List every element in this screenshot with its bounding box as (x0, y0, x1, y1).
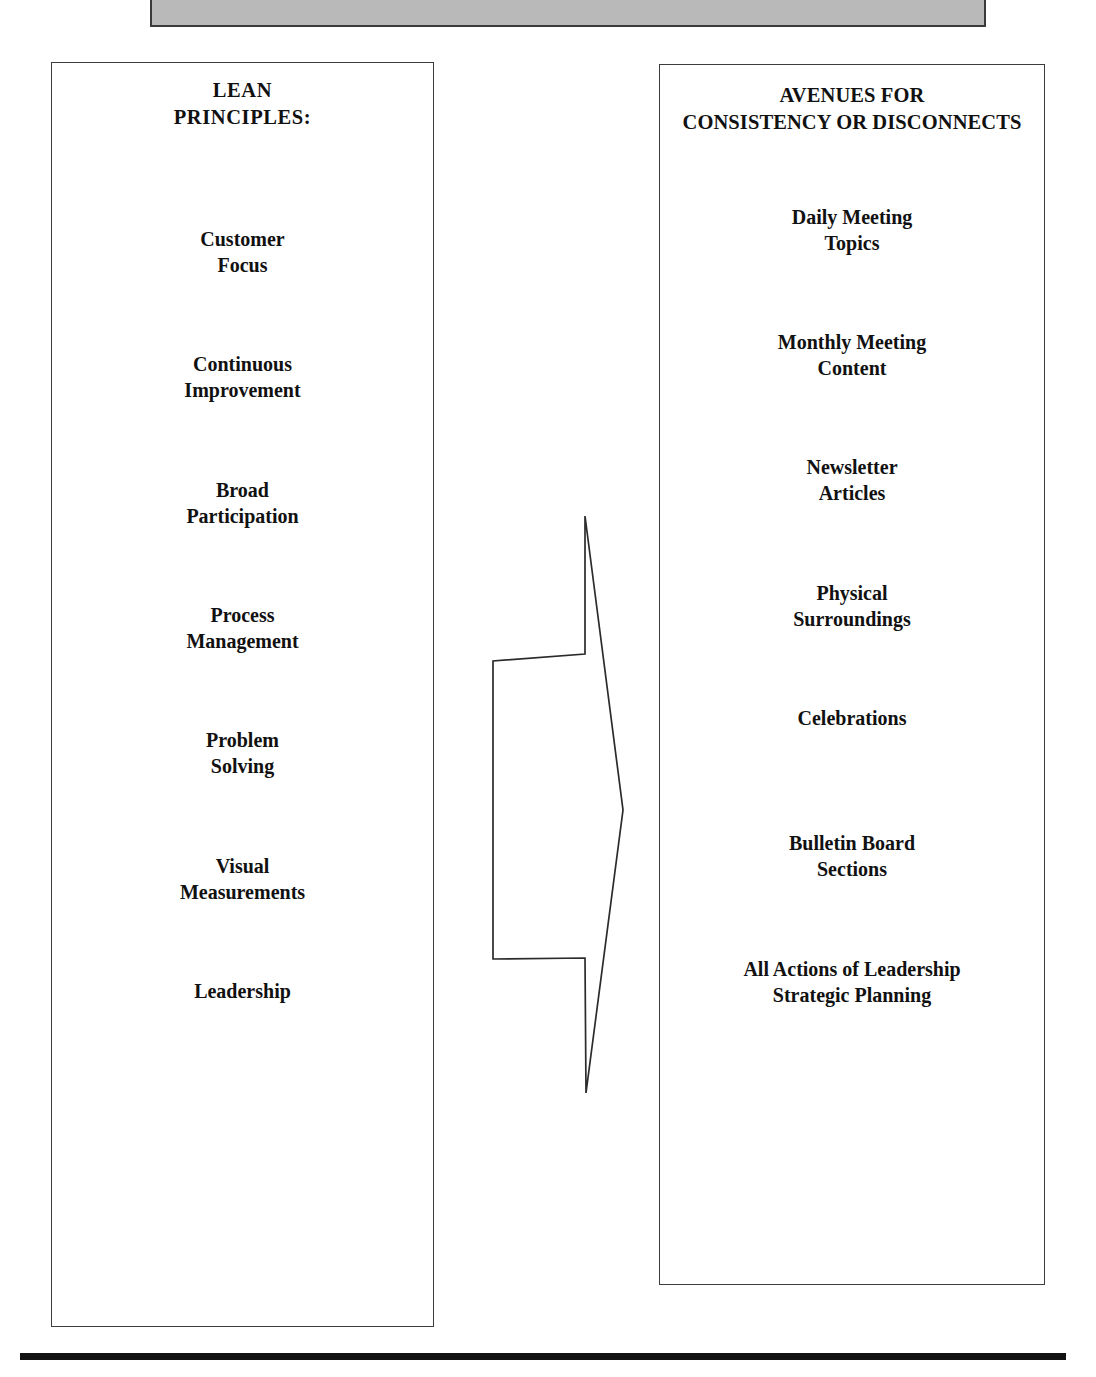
list-item-line: Focus (52, 252, 433, 278)
list-item-line: Broad (52, 477, 433, 503)
list-item-line: Visual (52, 853, 433, 879)
list-item-line: All Actions of Leadership (660, 956, 1044, 982)
list-item-line: Continuous (52, 351, 433, 377)
heading-line: CONSISTENCY OR DISCONNECTS (660, 109, 1044, 136)
list-item: Broad Participation (52, 477, 433, 529)
list-item-line: Strategic Planning (660, 982, 1044, 1008)
list-item-line: Newsletter (660, 454, 1044, 480)
list-item: Daily Meeting Topics (660, 204, 1044, 256)
top-gray-banner (150, 0, 986, 27)
bottom-horizontal-rule (20, 1353, 1066, 1360)
list-item: Physical Surroundings (660, 580, 1044, 632)
list-item: Continuous Improvement (52, 351, 433, 403)
list-item: Problem Solving (52, 727, 433, 779)
list-item-line: Monthly Meeting (660, 329, 1044, 355)
list-item: Leadership (52, 978, 433, 1004)
list-item-line: Management (52, 628, 433, 654)
list-item-line: Topics (660, 230, 1044, 256)
lean-principles-panel: LEAN PRINCIPLES: Customer Focus Continuo… (51, 62, 434, 1327)
list-item-line: Leadership (52, 978, 433, 1004)
list-item-line: Improvement (52, 377, 433, 403)
lean-principles-heading: LEAN PRINCIPLES: (52, 77, 433, 130)
heading-line: PRINCIPLES: (52, 104, 433, 131)
diagram-page: LEAN PRINCIPLES: Customer Focus Continuo… (0, 0, 1096, 1377)
list-item-line: Daily Meeting (660, 204, 1044, 230)
list-item-line: Measurements (52, 879, 433, 905)
list-item: Monthly Meeting Content (660, 329, 1044, 381)
heading-line: AVENUES FOR (660, 82, 1044, 109)
list-item-line: Process (52, 602, 433, 628)
avenues-panel: AVENUES FOR CONSISTENCY OR DISCONNECTS D… (659, 64, 1045, 1285)
list-item-line: Bulletin Board (660, 830, 1044, 856)
list-item: Visual Measurements (52, 853, 433, 905)
list-item-line: Participation (52, 503, 433, 529)
list-item: All Actions of Leadership Strategic Plan… (660, 956, 1044, 1008)
list-item-line: Solving (52, 753, 433, 779)
list-item: Process Management (52, 602, 433, 654)
list-item-line: Surroundings (660, 606, 1044, 632)
heading-line: LEAN (52, 77, 433, 104)
list-item-line: Articles (660, 480, 1044, 506)
list-item-line: Customer (52, 226, 433, 252)
list-item: Customer Focus (52, 226, 433, 278)
avenues-heading: AVENUES FOR CONSISTENCY OR DISCONNECTS (660, 82, 1044, 135)
list-item-line: Celebrations (660, 705, 1044, 731)
list-item: Celebrations (660, 705, 1044, 731)
list-item-line: Problem (52, 727, 433, 753)
list-item-line: Sections (660, 856, 1044, 882)
right-pointing-block-arrow (493, 516, 623, 1093)
list-item: Bulletin Board Sections (660, 830, 1044, 882)
list-item: Newsletter Articles (660, 454, 1044, 506)
list-item-line: Physical (660, 580, 1044, 606)
list-item-line: Content (660, 355, 1044, 381)
